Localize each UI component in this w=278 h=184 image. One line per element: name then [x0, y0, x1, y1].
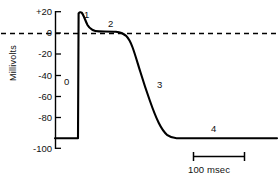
phase-1-label: 1	[84, 10, 89, 20]
y-tick-20: +20	[14, 7, 52, 17]
scale-bar	[193, 152, 245, 161]
y-tick-minus-100: -100	[14, 144, 52, 154]
phase-4-label: 4	[211, 124, 216, 134]
y-tick-minus-40: -40	[14, 71, 52, 81]
y-tick-label: -40	[18, 71, 52, 81]
y-tick-label: 0	[18, 28, 52, 38]
scale-bar-label: 100 msec	[188, 164, 230, 175]
y-tick-label: +20	[18, 7, 52, 17]
y-tick-label: -60	[18, 92, 52, 102]
y-tick-0: 0	[14, 28, 52, 38]
y-tick-label: -100	[18, 144, 52, 154]
y-tick-minus-60: -60	[14, 92, 52, 102]
y-tick-minus-80: -80	[14, 113, 52, 123]
action-potential-trace	[55, 12, 277, 138]
phase-3-label: 3	[157, 80, 162, 90]
y-axis-ticks	[56, 33, 62, 118]
action-potential-figure: Millivolts +20 0 -20 -40 -60 -80 -100 0 …	[0, 0, 278, 184]
y-tick-label: -80	[18, 113, 52, 123]
y-axis-title: Millivolts	[8, 28, 18, 98]
phase-0-label: 0	[64, 77, 69, 87]
y-tick-label: -20	[18, 49, 52, 59]
y-tick-minus-20: -20	[14, 49, 52, 59]
phase-2-label: 2	[108, 19, 113, 29]
